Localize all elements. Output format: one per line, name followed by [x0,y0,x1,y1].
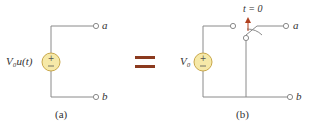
terminal-a-label-b: a [293,19,299,31]
terminal-a-label-a: a [102,19,108,31]
svg-text:+: + [48,54,55,63]
circuit-b [203,23,293,99]
voltage-source-a: + [42,53,60,71]
terminal-b-label-b: b [296,90,302,102]
switch-label: t = 0 [243,3,263,14]
caption-b: (b) [236,108,249,120]
circuit-diagram: + + [0,0,313,123]
source-label-a: V₀u(t) [6,55,32,67]
caption-a: (a) [55,108,67,120]
voltage-source-b: + [194,53,212,71]
svg-text:+: + [200,54,207,63]
source-label-b: V₀ [180,55,191,67]
terminal-b-label-a: b [102,90,108,102]
equals-sign [135,56,155,68]
